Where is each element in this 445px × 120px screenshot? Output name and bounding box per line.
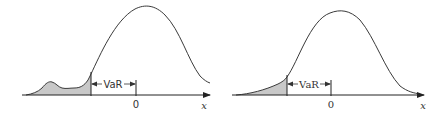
right-zero-label: 0: [328, 99, 334, 110]
var-diagram: VaR 0 x VaR 0 x: [0, 0, 445, 120]
right-tail-shade: [236, 77, 287, 95]
right-density-curve: [236, 11, 420, 95]
left-var-label: VaR: [103, 79, 122, 90]
left-x-label: x: [201, 100, 207, 111]
right-var-label: VaR: [298, 79, 319, 90]
left-chart: VaR 0 x: [22, 6, 210, 111]
right-x-label: x: [420, 100, 426, 111]
right-chart: VaR 0 x: [232, 11, 426, 111]
left-zero-label: 0: [133, 99, 139, 110]
